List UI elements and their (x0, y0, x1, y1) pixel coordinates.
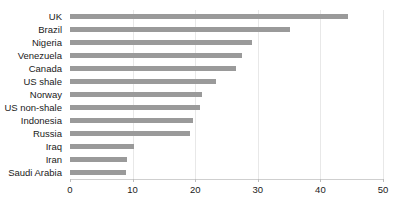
bar-row[interactable] (70, 153, 383, 166)
bar[interactable] (70, 40, 252, 45)
bar-chart: UKBrazilNigeriaVenezuelaCanadaUS shaleNo… (0, 0, 398, 211)
bar-row[interactable] (70, 49, 383, 62)
category-label: Nigeria (0, 36, 66, 49)
category-axis: UKBrazilNigeriaVenezuelaCanadaUS shaleNo… (0, 10, 66, 179)
category-label: Saudi Arabia (0, 166, 66, 179)
tick-label: 10 (127, 184, 138, 195)
bar-row[interactable] (70, 166, 383, 179)
tick-mark (195, 179, 196, 182)
bar[interactable] (70, 157, 127, 162)
bar-row[interactable] (70, 88, 383, 101)
bar[interactable] (70, 118, 193, 123)
tick-label: 50 (378, 184, 389, 195)
tick-label: 30 (253, 184, 264, 195)
tick-label: 20 (190, 184, 201, 195)
gridline (383, 10, 384, 179)
category-label: Venezuela (0, 49, 66, 62)
bar-row[interactable] (70, 127, 383, 140)
bar-series (70, 10, 383, 179)
bar[interactable] (70, 170, 126, 175)
value-axis: 01020304050 (70, 179, 383, 203)
category-label: US shale (0, 75, 66, 88)
bar-row[interactable] (70, 140, 383, 153)
bar-row[interactable] (70, 101, 383, 114)
category-label: UK (0, 10, 66, 23)
tick-mark (320, 179, 321, 182)
axis-line (70, 179, 383, 180)
category-label: Norway (0, 88, 66, 101)
tick-label: 40 (315, 184, 326, 195)
bar[interactable] (70, 92, 202, 97)
category-label: Russia (0, 127, 66, 140)
bar-row[interactable] (70, 10, 383, 23)
bar[interactable] (70, 79, 216, 84)
bar[interactable] (70, 53, 242, 58)
tick-label: 0 (67, 184, 72, 195)
category-label: US non-shale (0, 101, 66, 114)
bar[interactable] (70, 14, 348, 19)
category-label: Canada (0, 62, 66, 75)
category-label: Iraq (0, 140, 66, 153)
tick-mark (70, 179, 71, 182)
category-label: Indonesia (0, 114, 66, 127)
bar-row[interactable] (70, 62, 383, 75)
tick-mark (133, 179, 134, 182)
category-label: Iran (0, 153, 66, 166)
bar-row[interactable] (70, 114, 383, 127)
bar[interactable] (70, 66, 236, 71)
bar[interactable] (70, 105, 200, 110)
tick-mark (383, 179, 384, 182)
bar-row[interactable] (70, 23, 383, 36)
bar[interactable] (70, 131, 190, 136)
bar[interactable] (70, 144, 134, 149)
plot-area (70, 10, 383, 179)
category-label: Brazil (0, 23, 66, 36)
bar-row[interactable] (70, 36, 383, 49)
tick-mark (258, 179, 259, 182)
bar-row[interactable] (70, 75, 383, 88)
bar[interactable] (70, 27, 290, 32)
